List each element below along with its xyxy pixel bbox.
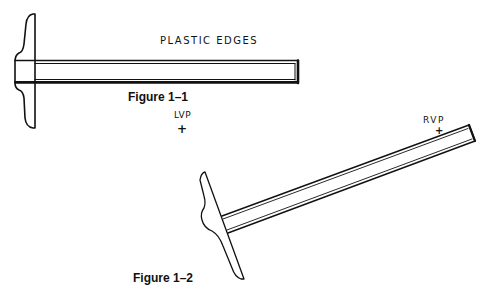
figure-caption-1-2: Figure 1–2 — [133, 272, 193, 284]
t-square-horizontal — [15, 14, 298, 128]
rvp-marker: + — [435, 126, 443, 136]
figure-caption-1-1: Figure 1–1 — [128, 91, 188, 103]
rvp-label: RVP — [423, 116, 445, 125]
lvp-label: LVP — [174, 111, 191, 120]
t-square-angled — [200, 125, 475, 279]
t-square-blade — [222, 125, 475, 233]
plastic-edges-annotation: PLASTIC EDGES — [160, 36, 258, 46]
t-square-head — [15, 14, 35, 128]
t-square-head — [200, 172, 244, 279]
lvp-marker: + — [177, 123, 187, 135]
